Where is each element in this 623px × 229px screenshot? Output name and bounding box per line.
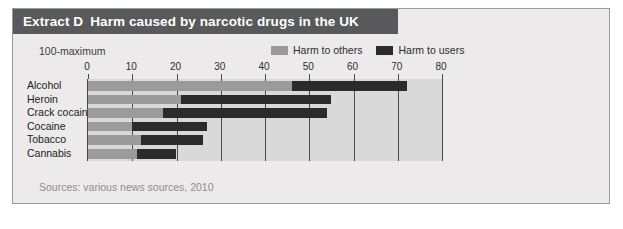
chart-bar-row: [88, 120, 442, 134]
chart-bar-row: [88, 79, 442, 93]
x-tick-label: 60: [347, 61, 358, 72]
chart-bar-row: [88, 93, 442, 107]
chart-bar-segment: [88, 135, 141, 145]
chart-bar-segment: [88, 81, 292, 91]
y-category-label: Heroin: [27, 93, 87, 107]
y-category-label: Cannabis: [27, 147, 87, 161]
chart-bar-segment: [88, 108, 163, 118]
chart-bar-row: [88, 133, 442, 147]
x-tick-label: 40: [258, 61, 269, 72]
chart-bar-row: [88, 147, 442, 161]
x-axis-tick-labels: 01020304050607080: [13, 61, 609, 75]
chart-bar-row: [88, 106, 442, 120]
chart-bar-segment: [141, 135, 203, 145]
scale-caption: 100-maximum: [39, 45, 106, 57]
source-note: Sources: various news sources, 2010: [39, 181, 214, 193]
y-category-label: Alcohol: [27, 79, 87, 93]
legend-label-harm-to-users: Harm to users: [398, 44, 464, 56]
extract-figure-panel: Extract DHarm caused by narcotic drugs i…: [12, 8, 610, 204]
legend-item-harm-to-users: Harm to users: [376, 44, 464, 56]
x-tick-label: 20: [170, 61, 181, 72]
legend-swatch-harm-to-users: [376, 46, 393, 55]
x-tick-label: 30: [214, 61, 225, 72]
chart-bar-segment: [88, 149, 137, 159]
chart-bar-segment: [163, 108, 327, 118]
chart-bar-segment: [292, 81, 407, 91]
figure-title-text: Harm caused by narcotic drugs in the UK: [90, 14, 359, 29]
figure-title-bar: Extract DHarm caused by narcotic drugs i…: [13, 9, 398, 34]
chart-bar-segment: [132, 122, 207, 132]
legend-item-harm-to-others: Harm to others: [271, 44, 362, 56]
x-tick-label: 10: [126, 61, 137, 72]
y-category-label: Crack cocaine: [27, 106, 87, 120]
legend-swatch-harm-to-others: [271, 46, 288, 55]
x-tick-label: 80: [435, 61, 446, 72]
chart-legend: Harm to others Harm to users: [271, 44, 464, 56]
chart-gridline: [442, 79, 443, 161]
page-title: Extract DHarm caused by narcotic drugs i…: [23, 14, 359, 29]
x-axis-tickmark: [442, 74, 443, 79]
y-axis-category-labels: AlcoholHeroinCrack cocaineCocaineTobacco…: [27, 79, 87, 161]
x-tick-label: 50: [303, 61, 314, 72]
y-category-label: Tobacco: [27, 133, 87, 147]
y-category-label: Cocaine: [27, 120, 87, 134]
chart-bar-segment: [88, 95, 181, 105]
chart-bar-segment: [88, 122, 132, 132]
extract-tag: Extract D: [23, 14, 83, 29]
chart-plot-wrapper: 01020304050607080 AlcoholHeroinCrack coc…: [13, 61, 609, 181]
chart-bar-segment: [137, 149, 177, 159]
chart-bar-segment: [181, 95, 331, 105]
x-tick-label: 70: [391, 61, 402, 72]
legend-label-harm-to-others: Harm to others: [293, 44, 362, 56]
chart-plot-area: [87, 79, 442, 161]
x-tick-label: 0: [84, 61, 90, 72]
